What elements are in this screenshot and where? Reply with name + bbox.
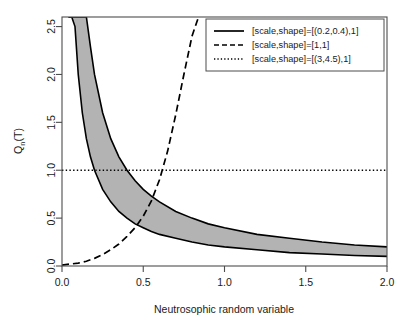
y-axis-title-base: Q [12, 146, 24, 154]
y-tick-label: 0.5 [45, 211, 57, 226]
x-tick-label: 1.0 [217, 276, 232, 288]
y-tick-label: 0.0 [45, 259, 57, 274]
chart-canvas: 0.00.51.01.52.0 0.00.51.01.52.02.5 Neutr… [0, 0, 408, 324]
svg-text:2.0: 2.0 [45, 67, 57, 82]
svg-text:0.5: 0.5 [45, 211, 57, 226]
y-tick-label: 2.0 [45, 67, 57, 82]
y-tick-label: 2.5 [45, 19, 57, 34]
legend-label-0: [scale,shape]=[(0.2,0.4),1] [252, 26, 359, 36]
y-axis-title-tail: (T) [12, 128, 24, 141]
x-tick-label: 0.0 [55, 276, 70, 288]
x-tick-label: 1.5 [298, 276, 313, 288]
svg-text:2.5: 2.5 [45, 19, 57, 34]
x-tick-label: 0.5 [136, 276, 151, 288]
legend-label-2: [scale,shape]=[(3,4.5),1] [252, 54, 351, 64]
svg-text:1.0: 1.0 [45, 163, 57, 178]
legend: [scale,shape]=[(0.2,0.4),1] [scale,shape… [206, 19, 384, 71]
y-tick-label: 1.0 [45, 163, 57, 178]
y-tick-label: 1.5 [45, 115, 57, 130]
svg-text:0.0: 0.0 [45, 259, 57, 274]
legend-label-1: [scale,shape]=[1,1] [252, 40, 329, 50]
chart-figure: 0.00.51.01.52.0 0.00.51.01.52.02.5 Neutr… [0, 0, 408, 324]
x-axis-title: Neutrosophic random variable [154, 303, 294, 315]
x-tick-label: 2.0 [380, 276, 395, 288]
svg-text:1.5: 1.5 [45, 115, 57, 130]
